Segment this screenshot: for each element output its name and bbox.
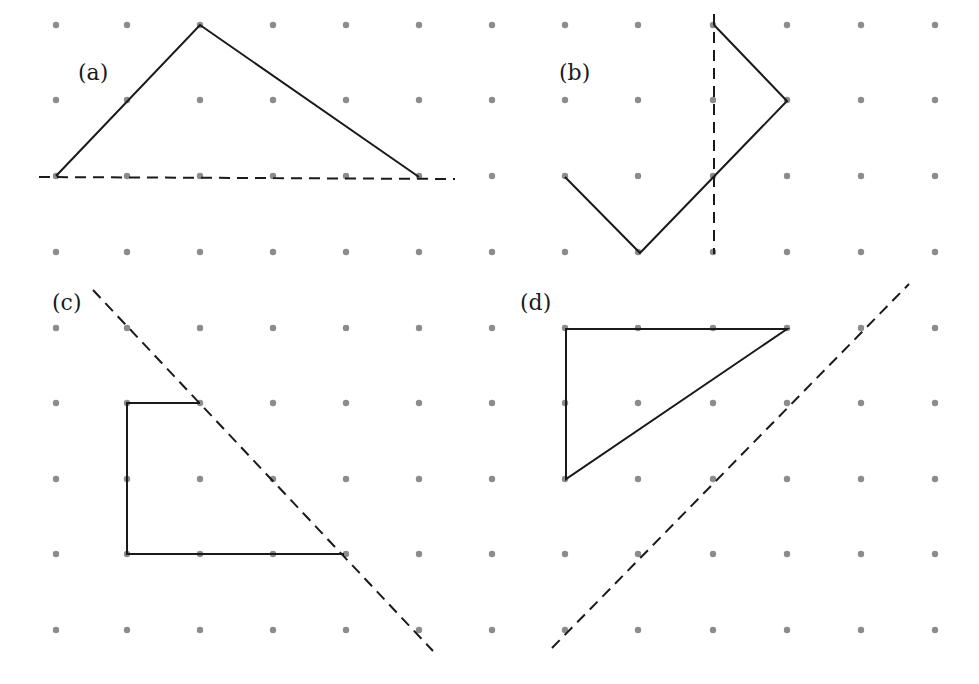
grid-dot bbox=[932, 173, 938, 179]
grid-dot bbox=[416, 551, 422, 557]
grid-dot bbox=[562, 551, 568, 557]
grid-dot bbox=[562, 249, 568, 255]
grid-dot bbox=[343, 249, 349, 255]
grid-dot bbox=[562, 97, 568, 103]
grid-dot bbox=[270, 325, 276, 331]
figure-d bbox=[566, 329, 787, 479]
grid-dot bbox=[710, 97, 716, 103]
grid-dot bbox=[562, 22, 568, 28]
dot-grid-diagram bbox=[0, 0, 979, 684]
grid-dot bbox=[784, 249, 790, 255]
panel-label-d: (d) bbox=[520, 292, 551, 314]
grid-dot bbox=[635, 22, 641, 28]
grid-dot bbox=[635, 97, 641, 103]
grid-dot bbox=[197, 476, 203, 482]
grid-dot bbox=[635, 400, 641, 406]
grid-dot bbox=[635, 476, 641, 482]
grid-dot bbox=[343, 476, 349, 482]
grid-dot bbox=[635, 173, 641, 179]
grid-dot bbox=[710, 400, 716, 406]
grid-dot bbox=[416, 22, 422, 28]
grid-dot bbox=[489, 325, 495, 331]
grid-dot bbox=[710, 551, 716, 557]
grid-dot bbox=[489, 97, 495, 103]
grid-dot bbox=[416, 627, 422, 633]
grid-dot bbox=[197, 627, 203, 633]
grid-dot bbox=[124, 22, 130, 28]
reflection-line-a bbox=[39, 177, 455, 179]
grid-dot bbox=[489, 400, 495, 406]
grid-dot bbox=[784, 476, 790, 482]
grid-dot bbox=[416, 97, 422, 103]
grid-dot bbox=[124, 627, 130, 633]
grid-dot bbox=[343, 22, 349, 28]
grid-dot bbox=[858, 325, 864, 331]
grid-dot bbox=[858, 400, 864, 406]
grid-dot bbox=[416, 400, 422, 406]
figure-c bbox=[127, 403, 344, 554]
grid-dot bbox=[270, 400, 276, 406]
reflection-line-d bbox=[552, 284, 909, 648]
grid-dot bbox=[489, 22, 495, 28]
grid-dot bbox=[784, 400, 790, 406]
grid-dot bbox=[489, 476, 495, 482]
figure-b bbox=[565, 25, 787, 253]
grid-dot bbox=[489, 627, 495, 633]
grid-dot bbox=[53, 249, 59, 255]
grid-dot bbox=[53, 476, 59, 482]
grid-dot bbox=[416, 476, 422, 482]
grid-dot bbox=[858, 22, 864, 28]
grid-dot bbox=[270, 97, 276, 103]
grid-dot bbox=[270, 249, 276, 255]
grid-dot bbox=[53, 627, 59, 633]
grid-dot bbox=[635, 627, 641, 633]
panel-label-a: (a) bbox=[78, 62, 108, 84]
grid-dot bbox=[489, 551, 495, 557]
panel-label-b: (b) bbox=[559, 62, 590, 84]
grid-dot bbox=[932, 97, 938, 103]
grid-dot bbox=[858, 627, 864, 633]
grid-dot bbox=[197, 249, 203, 255]
grid-dot bbox=[932, 249, 938, 255]
grid-dot bbox=[270, 22, 276, 28]
grid-dot bbox=[489, 173, 495, 179]
grid-dot bbox=[53, 400, 59, 406]
grid-dot bbox=[858, 173, 864, 179]
grid-dot bbox=[858, 97, 864, 103]
grid-dot bbox=[784, 173, 790, 179]
grid-dot bbox=[416, 325, 422, 331]
grid-dot bbox=[784, 22, 790, 28]
reflection-line-c bbox=[93, 290, 433, 651]
grid-dot bbox=[932, 627, 938, 633]
grid-dot bbox=[932, 476, 938, 482]
grid-dot bbox=[932, 325, 938, 331]
grid-dot bbox=[416, 249, 422, 255]
grid-dot bbox=[124, 249, 130, 255]
grid-dot bbox=[784, 551, 790, 557]
grid-dot bbox=[635, 551, 641, 557]
figure-shapes bbox=[56, 25, 787, 554]
grid-dot bbox=[197, 97, 203, 103]
grid-dot bbox=[710, 627, 716, 633]
grid-dot bbox=[343, 97, 349, 103]
grid-dot bbox=[489, 249, 495, 255]
grid-dot bbox=[858, 249, 864, 255]
grid-dot bbox=[858, 551, 864, 557]
figure-a bbox=[56, 25, 419, 177]
panel-label-c: (c) bbox=[52, 292, 82, 314]
grid-dot bbox=[932, 551, 938, 557]
grid-dot bbox=[858, 476, 864, 482]
grid-dot bbox=[53, 22, 59, 28]
grid-dot bbox=[343, 325, 349, 331]
dot-grid bbox=[53, 22, 938, 633]
grid-dot bbox=[932, 400, 938, 406]
grid-dot bbox=[932, 22, 938, 28]
grid-dot bbox=[270, 627, 276, 633]
grid-dot bbox=[343, 627, 349, 633]
grid-dot bbox=[197, 325, 203, 331]
grid-dot bbox=[53, 97, 59, 103]
grid-dot bbox=[53, 325, 59, 331]
grid-dot bbox=[53, 551, 59, 557]
grid-dot bbox=[124, 325, 130, 331]
grid-dot bbox=[710, 476, 716, 482]
